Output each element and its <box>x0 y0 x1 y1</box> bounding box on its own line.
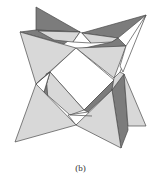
polyhedron-figure <box>0 0 161 181</box>
face-top-left-dark <box>36 7 80 32</box>
face-right-outer-light <box>124 74 146 126</box>
figure-caption: (b) <box>0 163 161 173</box>
